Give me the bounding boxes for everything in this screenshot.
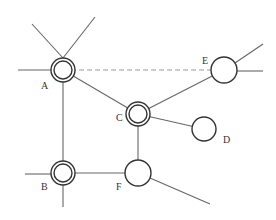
node-outer-ring — [211, 57, 237, 83]
node-e — [211, 57, 237, 83]
stub-line-a-0 — [32, 24, 63, 58]
edge-c-e — [138, 70, 224, 114]
stub-line-f-7 — [150, 178, 210, 204]
node-b — [51, 161, 75, 185]
node-d — [192, 117, 216, 141]
nodes — [51, 57, 237, 186]
node-c — [126, 102, 150, 126]
node-f — [125, 160, 151, 186]
node-label-c: C — [116, 112, 123, 123]
node-label-f: F — [116, 181, 122, 192]
node-label-b: B — [41, 181, 48, 192]
node-label-e: E — [202, 55, 208, 66]
stub-line-e-5 — [235, 44, 263, 63]
edge-a-c — [63, 70, 138, 114]
node-inner-ring — [54, 61, 72, 79]
node-outer-ring — [192, 117, 216, 141]
stub-line-a-1 — [63, 17, 95, 58]
network-diagram: ABCDEF — [0, 0, 276, 220]
node-outer-ring — [125, 160, 151, 186]
node-inner-ring — [54, 164, 72, 182]
node-label-d: D — [223, 134, 230, 145]
node-a — [51, 58, 75, 82]
node-inner-ring — [129, 105, 147, 123]
node-label-a: A — [41, 80, 49, 91]
